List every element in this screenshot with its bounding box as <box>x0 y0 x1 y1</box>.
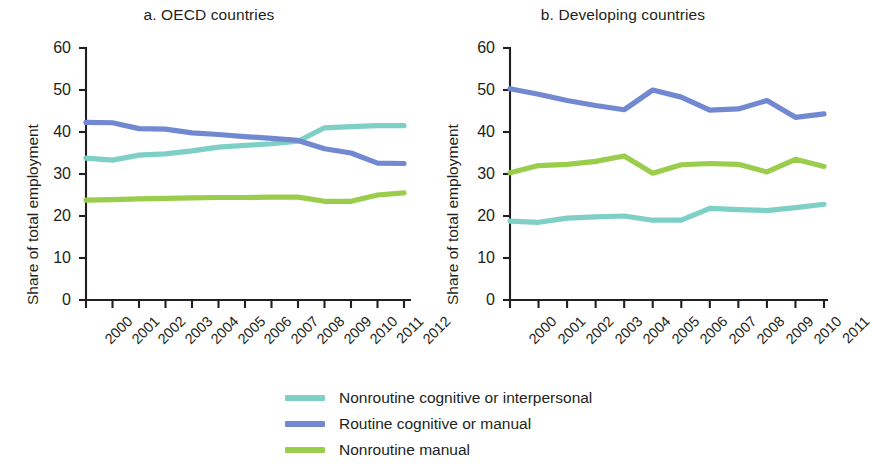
legend-swatch-routine-icon <box>285 421 325 427</box>
y-tick-label: 40 <box>41 124 71 140</box>
y-tick-label: 40 <box>465 124 495 140</box>
y-tick-label: 10 <box>41 250 71 266</box>
legend-item: Routine cognitive or manual <box>285 411 755 437</box>
y-tick-label: 30 <box>465 166 495 182</box>
panel-oecd-countries: a. OECD countries Share of total employm… <box>0 0 420 372</box>
y-tick-label: 0 <box>41 292 71 308</box>
y-tick-label: 60 <box>465 40 495 56</box>
x-tick-label: 2011 <box>839 313 872 346</box>
legend-label: Nonroutine manual <box>339 442 470 458</box>
legend-swatch-nonroutine-cognitive-icon <box>285 395 325 401</box>
y-tick-label: 20 <box>41 208 71 224</box>
y-tick-label: 50 <box>41 82 71 98</box>
legend-label: Routine cognitive or manual <box>339 416 531 432</box>
panel-developing-countries: b. Developing countries Share of total e… <box>420 0 828 372</box>
legend-item: Nonroutine manual <box>285 437 755 463</box>
legend-item: Nonroutine cognitive or interpersonal <box>285 385 755 411</box>
y-tick-label: 60 <box>41 40 71 56</box>
y-tick-label: 20 <box>465 208 495 224</box>
legend-label: Nonroutine cognitive or interpersonal <box>339 390 592 406</box>
legend-swatch-nonroutine-manual-icon <box>285 447 325 453</box>
y-tick-label: 10 <box>465 250 495 266</box>
y-tick-label: 50 <box>465 82 495 98</box>
y-tick-label: 30 <box>41 166 71 182</box>
legend: Nonroutine cognitive or interpersonal Ro… <box>285 385 755 463</box>
y-tick-label: 0 <box>465 292 495 308</box>
